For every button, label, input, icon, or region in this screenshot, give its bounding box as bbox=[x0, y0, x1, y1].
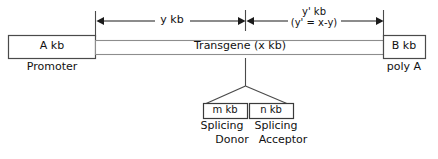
leader-branch-donor bbox=[205, 86, 246, 104]
polya-caption: poly A bbox=[387, 61, 421, 73]
promoter-box-label: A kb bbox=[40, 40, 64, 52]
promoter-caption: Promoter bbox=[27, 61, 78, 73]
splice-acceptor-caption-line2: Acceptor bbox=[259, 134, 308, 146]
splice-leader-lines bbox=[205, 58, 288, 104]
measure-label-yprime-line2: (y' = x-y) bbox=[291, 17, 337, 28]
splice-donor-caption-line2: Donor bbox=[215, 134, 248, 146]
transgene-diagram: A kb Promoter Transgene (x kb) B kb poly… bbox=[0, 0, 438, 159]
splice-donor-box-label: m kb bbox=[212, 105, 237, 116]
polya-box-label: B kb bbox=[392, 40, 416, 52]
splice-acceptor-box-label: n kb bbox=[260, 105, 282, 116]
leader-branch-acceptor bbox=[246, 86, 289, 104]
measure-label-yprime-line1: y' kb bbox=[302, 6, 326, 17]
splice-donor-caption-line1: Splicing bbox=[200, 120, 243, 132]
transgene-bar-label: Transgene (x kb) bbox=[194, 40, 286, 52]
measure-label-y: y kb bbox=[160, 14, 183, 26]
boundary-ticks bbox=[96, 10, 384, 37]
splice-acceptor-caption-line1: Splicing bbox=[254, 120, 297, 132]
